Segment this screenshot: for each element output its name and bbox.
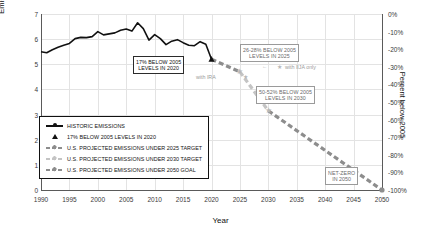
x-tick-label: 2000 (91, 196, 105, 203)
x-tick-label: 2025 (233, 196, 247, 203)
y-tick-label-right: -90% (388, 169, 412, 176)
legend-key-solid-line (46, 121, 63, 130)
y-tick-label-left: 1 (24, 161, 38, 168)
y-tick-label-left: 4 (24, 86, 38, 93)
legend-key-dashed-gray (46, 143, 63, 152)
annotation-2025: 26-28% BELOW 2005LEVELS IN 2025 (240, 44, 299, 62)
annotation-2030: 50-52% BELOW 2005LEVELS IN 2030 (256, 86, 315, 104)
legend-label: U.S. PROJECTED EMISSIONS UNDER 2030 TARG… (67, 156, 202, 162)
y-tick-label-right: -50% (388, 99, 412, 106)
y-tick-label-right: -40% (388, 81, 412, 88)
y-tick-label-right: -10% (388, 28, 412, 35)
arrow-icon-iija: ← (262, 63, 267, 69)
legend-item: U.S. PROJECTED EMISSIONS UNDER 2030 TARG… (40, 153, 208, 164)
legend-label: 17% BELOW 2005 LEVELS IN 2020 (67, 134, 156, 140)
legend: HISTORIC EMISSIONS17% BELOW 2005 LEVELS … (39, 116, 209, 179)
legend-label: HISTORIC EMISSIONS (67, 123, 125, 129)
y-tick-label-left: 2 (24, 136, 38, 143)
x-tick-label: 1990 (34, 196, 48, 203)
legend-item: 17% BELOW 2005 LEVELS IN 2020 (40, 131, 208, 142)
marker-dot (379, 187, 384, 192)
x-tick-label: 2005 (119, 196, 133, 203)
annotation-net-zero: NET-ZEROIN 2050 (325, 167, 358, 185)
marker-star: ★ (265, 106, 272, 115)
star-icon-ira: ★ (243, 74, 248, 80)
y-tick-label-left: 0 (24, 187, 38, 194)
x-tick-label: 2030 (261, 196, 275, 203)
label-with-ira: with IRA (196, 74, 216, 80)
legend-key-dashed-gray (46, 165, 63, 174)
axis-line-right (382, 14, 383, 190)
y-tick-label-right: -60% (388, 116, 412, 123)
emissions-chart: Emissions (Gigatons CO2 equivalent) Perc… (0, 0, 441, 238)
x-tick-label: 2045 (346, 196, 360, 203)
y-tick-label-left: 5 (24, 61, 38, 68)
y-tick-label-right: -100% (388, 187, 412, 194)
legend-key-dashed-lightgray (46, 154, 63, 163)
y-tick-label-right: -70% (388, 134, 412, 141)
x-tick-label: 2050 (375, 196, 389, 203)
series-solid-black (41, 23, 212, 59)
y-tick-label-right: -30% (388, 63, 412, 70)
x-tick-label: 2010 (147, 196, 161, 203)
y-tick-label-right: -20% (388, 46, 412, 53)
y-tick-label-left: 6 (24, 36, 38, 43)
y-tick-label-left: 7 (24, 11, 38, 18)
x-tick-label: 2035 (290, 196, 304, 203)
legend-item: U.S. PROJECTED EMISSIONS UNDER 2025 TARG… (40, 142, 208, 153)
y-axis-left-title: Emissions (Gigatons CO2 equivalent) (0, 0, 8, 38)
axis-line-bottom (41, 190, 382, 191)
x-tick-label: 2040 (318, 196, 332, 203)
legend-label: U.S. PROJECTED EMISSIONS UNDER 2050 GOAL (67, 167, 196, 173)
legend-label: U.S. PROJECTED EMISSIONS UNDER 2025 TARG… (67, 145, 202, 151)
star-icon-iija: ★ (277, 64, 282, 70)
x-tick-label: 1995 (62, 196, 76, 203)
y-tick-label-right: -80% (388, 151, 412, 158)
y-tick-label-left: 3 (24, 111, 38, 118)
x-axis-title: Year (0, 216, 441, 225)
legend-key-triangle (46, 132, 63, 141)
x-tick-label: 2015 (176, 196, 190, 203)
label-with-iija-only: with IIJA only (285, 64, 316, 70)
x-tick-label: 2020 (204, 196, 218, 203)
legend-item: HISTORIC EMISSIONS (40, 120, 208, 131)
annotation-2020: 17% BELOW 2005LEVELS IN 2020 (133, 56, 184, 74)
y-tick-label-right: 0% (388, 11, 412, 18)
legend-item: U.S. PROJECTED EMISSIONS UNDER 2050 GOAL (40, 164, 208, 175)
